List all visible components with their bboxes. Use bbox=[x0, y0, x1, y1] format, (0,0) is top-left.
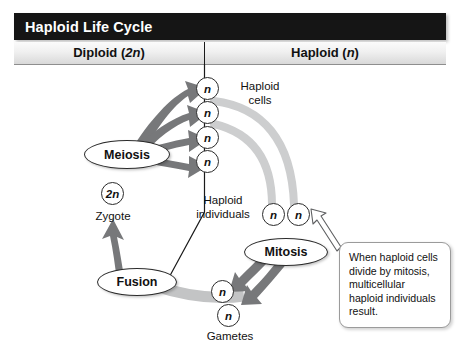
cell-haploid-4[interactable]: n bbox=[196, 150, 219, 173]
stage-mitosis-label: Mitosis bbox=[264, 245, 307, 259]
cell-haploid-2[interactable]: n bbox=[196, 101, 219, 124]
cell-individual-1-symbol: n bbox=[270, 209, 277, 221]
stage-fusion[interactable]: Fusion bbox=[97, 268, 177, 296]
band-cells-to-individuals-inner bbox=[214, 124, 272, 205]
cell-individual-2-symbol: n bbox=[295, 209, 302, 221]
cell-gamete-1-symbol: n bbox=[219, 286, 226, 298]
stage-meiosis[interactable]: Meiosis bbox=[84, 140, 170, 169]
cell-gamete-2[interactable]: n bbox=[217, 304, 240, 327]
cell-haploid-1-symbol: n bbox=[204, 83, 211, 95]
haploid-individuals-label: Haploid individuals bbox=[186, 194, 260, 221]
cell-individual-2[interactable]: n bbox=[287, 203, 310, 226]
callout-box: When haploid cells divide by mitosis, mu… bbox=[339, 242, 451, 328]
cell-zygote-symbol: 2n bbox=[106, 188, 119, 200]
cell-gamete-2-symbol: n bbox=[225, 310, 232, 322]
cell-haploid-1[interactable]: n bbox=[196, 77, 219, 100]
callout-text: When haploid cells divide by mitosis, mu… bbox=[349, 251, 438, 317]
haploid-life-cycle-figure: Haploid Life Cycle Diploid (2n) Haploid … bbox=[0, 0, 461, 353]
stage-fusion-label: Fusion bbox=[117, 275, 158, 289]
haploid-cells-label: Haploid cells bbox=[225, 80, 295, 107]
cell-individual-1[interactable]: n bbox=[262, 203, 285, 226]
stage-meiosis-label: Meiosis bbox=[104, 148, 150, 162]
stage-mitosis[interactable]: Mitosis bbox=[244, 238, 328, 266]
cell-zygote[interactable]: 2n bbox=[101, 182, 124, 205]
cell-haploid-3[interactable]: n bbox=[196, 126, 219, 149]
cell-zygote-label: Zygote bbox=[77, 210, 149, 224]
gametes-label: Gametes bbox=[192, 330, 268, 344]
cell-haploid-2-symbol: n bbox=[204, 107, 211, 119]
cell-haploid-4-symbol: n bbox=[204, 156, 211, 168]
cell-gamete-1[interactable]: n bbox=[211, 280, 234, 303]
cell-haploid-3-symbol: n bbox=[204, 132, 211, 144]
